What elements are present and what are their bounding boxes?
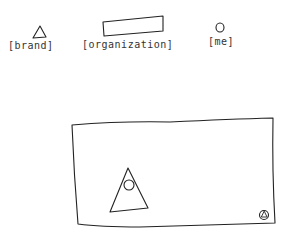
corner-action-button[interactable] (257, 208, 271, 222)
organization-selector[interactable] (82, 14, 174, 54)
main-panel-frame (72, 118, 275, 227)
triangle-with-circle-graphic (110, 168, 148, 212)
brand-link[interactable] (8, 22, 58, 54)
me-profile-button[interactable] (206, 20, 234, 50)
